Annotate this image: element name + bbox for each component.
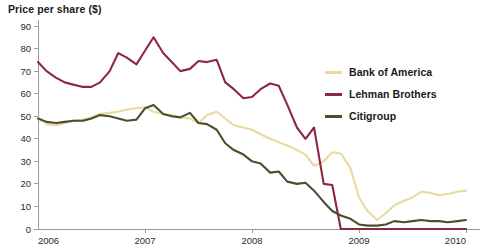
x-axis: 20062007200820092010 xyxy=(38,229,480,246)
x-tick-label: 2007 xyxy=(134,235,155,246)
price-per-share-chart: Price per share ($) 0102030405060708090 … xyxy=(0,0,481,251)
x-tick-label: 2006 xyxy=(38,235,59,246)
x-tick-label: 2009 xyxy=(348,235,369,246)
legend-label: Citigroup xyxy=(349,110,396,122)
y-tick-label: 70 xyxy=(20,66,31,77)
legend-swatch-icon xyxy=(325,93,342,96)
x-tick-label: 2008 xyxy=(241,235,262,246)
legend-swatch-icon xyxy=(325,115,342,118)
y-tick-label: 50 xyxy=(20,111,31,122)
legend-item-bank-of-america[interactable]: Bank of America xyxy=(325,63,437,81)
y-tick-label: 90 xyxy=(20,21,31,32)
y-tick-label: 40 xyxy=(20,133,31,144)
chart-legend: Bank of AmericaLehman BrothersCitigroup xyxy=(325,63,437,129)
legend-item-lehman-brothers[interactable]: Lehman Brothers xyxy=(325,85,437,103)
y-tick-label: 10 xyxy=(20,201,31,212)
x-tick-label: 2010 xyxy=(445,235,466,246)
legend-label: Bank of America xyxy=(349,66,432,78)
y-tick-label: 0 xyxy=(26,224,31,235)
legend-item-citigroup[interactable]: Citigroup xyxy=(325,107,437,125)
legend-label: Lehman Brothers xyxy=(349,88,437,100)
y-tick-label: 60 xyxy=(20,88,31,99)
y-tick-label: 80 xyxy=(20,43,31,54)
y-axis: 0102030405060708090 xyxy=(20,20,38,235)
y-tick-label: 30 xyxy=(20,156,31,167)
legend-swatch-icon xyxy=(325,71,342,74)
y-tick-label: 20 xyxy=(20,178,31,189)
